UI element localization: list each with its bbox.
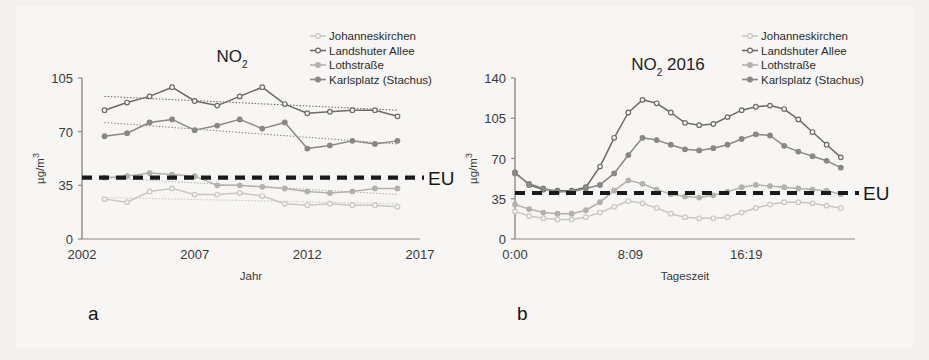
panel-letter: b xyxy=(517,303,528,324)
chart-title: NO2 xyxy=(216,47,248,70)
data-point xyxy=(824,203,829,208)
legend-label-lothstrasse: Lothstraße xyxy=(329,59,384,71)
data-point xyxy=(782,200,787,205)
data-point xyxy=(237,94,242,99)
legend-marker-johanneskirchen xyxy=(748,34,753,39)
data-point xyxy=(527,207,532,212)
data-point xyxy=(102,134,107,139)
x-axis-tick-label: 0:00 xyxy=(502,247,527,262)
data-point xyxy=(147,171,152,176)
data-point xyxy=(305,203,310,208)
data-point xyxy=(373,142,378,147)
data-point xyxy=(612,136,617,141)
data-point xyxy=(768,202,773,207)
data-point xyxy=(125,100,130,105)
y-axis-tick-label: 35 xyxy=(59,178,73,193)
series-landshuter_allee xyxy=(513,98,843,193)
data-point xyxy=(350,139,355,144)
data-point xyxy=(697,148,702,153)
series-landshuter_allee xyxy=(102,85,400,119)
data-point xyxy=(395,186,400,191)
data-point xyxy=(626,199,631,204)
data-point xyxy=(283,201,288,206)
data-point xyxy=(350,108,355,113)
series-line xyxy=(515,134,841,192)
data-point xyxy=(598,164,603,169)
data-point xyxy=(640,98,645,103)
data-point xyxy=(754,104,759,109)
data-point xyxy=(513,171,518,176)
data-point xyxy=(541,186,546,191)
legend-marker-johanneskirchen xyxy=(316,34,321,39)
data-point xyxy=(527,182,532,187)
data-point xyxy=(683,121,688,126)
x-axis-tick-label: 8:09 xyxy=(618,247,643,262)
data-point xyxy=(754,206,759,211)
eu-limit-label: EU xyxy=(863,183,889,204)
data-point xyxy=(739,210,744,215)
data-point xyxy=(260,194,265,199)
data-point xyxy=(555,217,560,222)
data-point xyxy=(654,206,659,211)
x-axis-title: Tageszeit xyxy=(661,270,710,282)
data-point xyxy=(598,200,603,205)
data-point xyxy=(283,102,288,107)
data-point xyxy=(260,185,265,190)
series-line xyxy=(515,180,841,213)
legend-marker-lothstrasse xyxy=(748,63,753,68)
data-point xyxy=(584,208,589,213)
eu-limit-label: EU xyxy=(428,168,454,189)
data-point xyxy=(147,189,152,194)
data-point xyxy=(612,205,617,210)
data-point xyxy=(839,165,844,170)
data-point xyxy=(669,142,674,147)
series-karlsplatz xyxy=(102,117,400,151)
data-point xyxy=(283,186,288,191)
data-point xyxy=(598,183,603,188)
legend-label-karlsplatz: Karlsplatz (Stachus) xyxy=(329,74,432,86)
panel-letter: a xyxy=(88,303,99,324)
data-point xyxy=(305,146,310,151)
data-point xyxy=(725,142,730,147)
series-karlsplatz xyxy=(513,132,843,194)
chart-panel-b: 035701051400:008:0916:19Tageszeitµg/m3NO… xyxy=(455,0,929,360)
data-point xyxy=(796,117,801,122)
y-axis-title-text: µg/m3 xyxy=(31,153,46,184)
data-point xyxy=(768,103,773,108)
data-point xyxy=(328,191,333,196)
chart-title: NO2 2016 xyxy=(631,55,705,78)
data-point xyxy=(754,183,759,188)
data-point xyxy=(125,131,130,136)
series-johanneskirchen xyxy=(513,199,843,222)
y-axis-title: µg/m3 xyxy=(464,153,479,184)
chart-legend: JohanneskirchenLandshuter AlleeLothstraß… xyxy=(310,30,432,85)
legend-marker-lothstrasse xyxy=(316,63,321,68)
data-point xyxy=(796,200,801,205)
legend-marker-landshuter_allee xyxy=(748,48,753,53)
data-point xyxy=(350,189,355,194)
chart-b-svg: 035701051400:008:0916:19Tageszeitµg/m3NO… xyxy=(455,0,929,360)
data-point xyxy=(796,149,801,154)
data-point xyxy=(215,183,220,188)
chart-a-svg: 035701052002200720122017Jahrµg/m3NO2EUJo… xyxy=(0,0,462,360)
data-point xyxy=(584,215,589,220)
data-point xyxy=(395,205,400,210)
data-point xyxy=(697,216,702,221)
data-point xyxy=(147,94,152,99)
data-point xyxy=(102,197,107,202)
data-point xyxy=(839,206,844,211)
data-point xyxy=(305,111,310,116)
data-point xyxy=(683,147,688,152)
data-point xyxy=(654,138,659,143)
data-point xyxy=(584,186,589,191)
data-point xyxy=(810,130,815,135)
data-point xyxy=(626,153,631,158)
data-point xyxy=(350,203,355,208)
data-point xyxy=(147,120,152,125)
chart-panel-a: 035701052002200720122017Jahrµg/m3NO2EUJo… xyxy=(0,0,462,360)
data-point xyxy=(824,142,829,147)
legend-label-landshuter_allee: Landshuter Allee xyxy=(761,45,847,57)
series-line xyxy=(515,100,841,191)
data-point xyxy=(654,101,659,106)
data-point xyxy=(612,188,617,193)
